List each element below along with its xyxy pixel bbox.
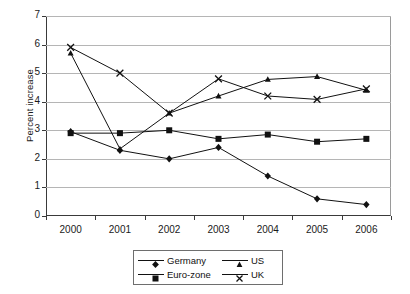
x-tick-label: 2000 — [48, 224, 94, 235]
square-marker-icon — [138, 268, 164, 280]
series-uk — [67, 44, 370, 117]
x-tick-mark — [145, 216, 146, 220]
y-tick-label: 0 — [18, 209, 40, 220]
legend-row: Germany US — [138, 253, 278, 267]
x-tick-label: 2005 — [294, 224, 340, 235]
y-tick-label: 5 — [18, 66, 40, 77]
y-tick-mark — [42, 102, 46, 103]
legend-item-euro-zone: Euro-zone — [138, 268, 222, 280]
y-tick-label: 7 — [18, 9, 40, 20]
x-tick-label: 2004 — [245, 224, 291, 235]
cross-marker-icon — [222, 268, 248, 280]
x-tick-label: 2001 — [97, 224, 143, 235]
x-tick-mark — [46, 216, 47, 220]
x-tick-mark — [243, 216, 244, 220]
x-tick-mark — [342, 216, 343, 220]
y-tick-mark — [42, 187, 46, 188]
y-tick-mark — [42, 73, 46, 74]
line-chart-figure: Percent increase 01234567 20002001200220… — [0, 0, 410, 294]
diamond-marker-icon — [138, 254, 164, 266]
y-tick-label: 3 — [18, 123, 40, 134]
legend-label-germany: Germany — [164, 255, 206, 266]
legend-row: Euro-zone UK — [138, 267, 278, 281]
y-tick-label: 2 — [18, 152, 40, 163]
y-tick-label: 6 — [18, 38, 40, 49]
x-tick-label: 2002 — [146, 224, 192, 235]
y-tick-label: 1 — [18, 180, 40, 191]
legend-item-germany: Germany — [138, 254, 222, 266]
legend-item-us: US — [222, 254, 264, 266]
y-tick-label: 4 — [18, 95, 40, 106]
legend-label-euro-zone: Euro-zone — [164, 269, 211, 280]
legend-label-uk: UK — [248, 269, 264, 280]
legend-item-uk: UK — [222, 268, 264, 280]
x-tick-mark — [194, 216, 195, 220]
x-tick-mark — [95, 216, 96, 220]
triangle-marker-icon — [222, 254, 248, 266]
series-lines — [46, 16, 391, 216]
legend-label-us: US — [248, 255, 264, 266]
chart-legend: Germany US Euro-zone UK — [133, 250, 283, 285]
x-tick-mark — [391, 216, 392, 220]
y-tick-mark — [42, 130, 46, 131]
x-tick-mark — [292, 216, 293, 220]
x-tick-label: 2003 — [196, 224, 242, 235]
y-tick-mark — [42, 159, 46, 160]
x-tick-label: 2006 — [343, 224, 389, 235]
plot-area — [46, 16, 391, 216]
y-tick-mark — [42, 45, 46, 46]
y-tick-mark — [42, 16, 46, 17]
